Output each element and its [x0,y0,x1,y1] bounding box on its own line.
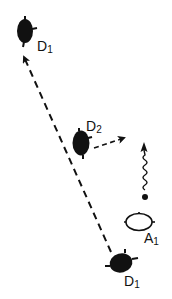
diagram-canvas: D1 D2 A1 D1 [0,0,172,299]
label-d2: D2 [86,118,102,135]
long-dashed-arrow [24,57,111,252]
label-d1-bottom: D1 [124,273,140,290]
wavy-arrow [141,142,149,200]
dot-marker [142,194,148,200]
d2-dashed-arrow [94,138,124,148]
cell-d1-bottom: D1 [105,249,140,290]
cell-d2: D2 [73,118,103,159]
cell-a1: A1 [124,212,159,247]
cell-d1-top: D1 [17,16,53,55]
label-a1: A1 [144,230,159,247]
label-d1-top: D1 [37,38,53,55]
